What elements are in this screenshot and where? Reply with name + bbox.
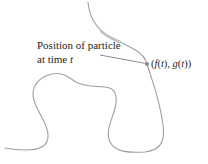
particle-point (145, 62, 149, 66)
annotation-line-1: Position of particle (37, 38, 121, 52)
parametric-curve (5, 2, 164, 152)
parametric-curve-figure (0, 0, 208, 164)
point-coordinate-label: (f(t), g(t)) (151, 57, 191, 70)
annotation-line-2: at time t (37, 52, 121, 66)
particle-position-annotation: Position of particle at time t (37, 38, 121, 66)
time-variable: t (70, 53, 73, 65)
